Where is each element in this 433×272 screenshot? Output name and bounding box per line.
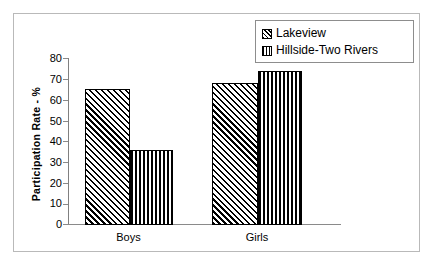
x-category-label-girls: Girls xyxy=(212,231,302,243)
y-tick-label-40: 40 xyxy=(20,136,62,147)
chart-legend: Lakeview Hillside-Two Rivers xyxy=(255,20,414,63)
y-axis-tick-labels: 80 70 60 50 40 30 20 10 0 xyxy=(16,0,62,272)
y-tick-label-20: 20 xyxy=(20,178,62,189)
y-tick-label-70: 70 xyxy=(20,74,62,85)
plot-area xyxy=(68,58,336,225)
bar-girls-hillside-two-rivers[interactable] xyxy=(258,71,302,225)
y-tick-label-10: 10 xyxy=(20,198,62,209)
bar-boys-lakeview[interactable] xyxy=(85,89,130,225)
bar-boys-hillside-two-rivers[interactable] xyxy=(130,150,173,225)
y-tick-label-0: 0 xyxy=(20,219,62,230)
x-category-label-boys: Boys xyxy=(85,231,172,243)
legend-item-hillside-two-rivers[interactable]: Hillside-Two Rivers xyxy=(262,42,408,59)
y-tick-label-30: 30 xyxy=(20,157,62,168)
bar-girls-lakeview[interactable] xyxy=(212,83,258,225)
y-tick-label-50: 50 xyxy=(20,116,62,127)
y-tick-label-80: 80 xyxy=(20,53,62,64)
legend-swatch-diagonal-hatch-icon xyxy=(262,29,272,39)
y-tick-label-60: 60 xyxy=(20,95,62,106)
legend-swatch-vertical-hatch-icon xyxy=(262,46,272,56)
chart-figure: Participation Rate - % 80 70 60 50 40 30… xyxy=(0,0,433,272)
legend-label-hillside-two-rivers: Hillside-Two Rivers xyxy=(276,44,378,57)
legend-label-lakeview: Lakeview xyxy=(276,27,326,40)
legend-item-lakeview[interactable]: Lakeview xyxy=(262,25,408,42)
